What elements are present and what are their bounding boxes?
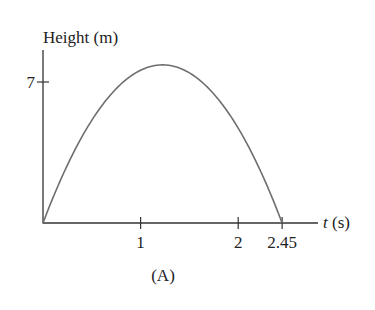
x-tick-label: 2: [234, 233, 243, 252]
height-curve: [43, 65, 282, 223]
axes: [43, 50, 318, 224]
y-axis-label: Height (m): [43, 28, 118, 47]
height-vs-time-chart: 122.45 7 Height (m) t (s) (A): [0, 0, 375, 310]
x-axis-label: t (s): [323, 213, 350, 232]
x-tick-label: 1: [136, 233, 145, 252]
y-ticks: 7: [27, 73, 50, 92]
figure-caption: (A): [151, 266, 175, 285]
x-ticks: 122.45: [136, 217, 297, 252]
x-tick-label: 2.45: [267, 233, 297, 252]
y-tick-label: 7: [27, 73, 36, 92]
x-axis-unit: (s): [328, 213, 350, 232]
